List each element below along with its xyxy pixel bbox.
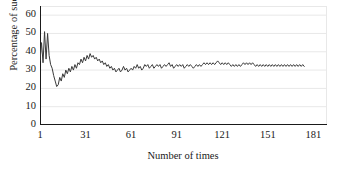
y-axis-tick-label: 40 — [16, 45, 36, 56]
y-axis-tick-label: 10 — [16, 100, 36, 111]
y-axis-tick-label: 20 — [16, 81, 36, 92]
chart-figure: Percentage of success 0102030405060 1316… — [0, 0, 340, 169]
x-axis-label: Number of times — [38, 150, 328, 161]
y-axis-tick-label: 30 — [16, 63, 36, 74]
x-axis-tick-label: 31 — [74, 129, 98, 140]
x-axis-tick-label: 91 — [165, 129, 189, 140]
y-axis-tick-label: 50 — [16, 26, 36, 37]
data-series-line — [40, 32, 304, 87]
plot-area — [40, 6, 327, 125]
x-axis-tick-label: 121 — [210, 129, 234, 140]
x-axis-tick-label: 151 — [256, 129, 280, 140]
x-axis-tick-labels: 1316191121151181 — [40, 129, 327, 143]
y-axis-tick-label: 60 — [16, 8, 36, 19]
y-axis-tick-labels: 0102030405060 — [0, 6, 36, 125]
x-axis-tick-label: 181 — [301, 129, 325, 140]
y-axis-tick-label: 0 — [16, 118, 36, 129]
x-axis-tick-label: 1 — [28, 129, 52, 140]
x-axis-tick-label: 61 — [119, 129, 143, 140]
